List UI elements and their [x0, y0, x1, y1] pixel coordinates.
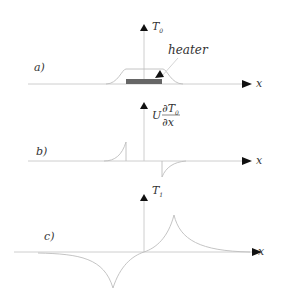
panel-a-y-arrow-icon — [140, 24, 148, 31]
panel-b: b) x U ∂T0 ∂x — [28, 102, 263, 177]
svg-text:U: U — [152, 109, 162, 122]
panel-c-y-arrow-icon — [140, 194, 148, 201]
panel-a-y-label: T0 — [152, 20, 163, 34]
heater-pointer-arrow-icon — [155, 70, 164, 78]
heater-bar — [126, 79, 162, 84]
panel-b-x-arrow-icon — [242, 157, 252, 165]
panel-a: a) x T0 heater — [28, 20, 263, 90]
heater-pointer-line — [162, 58, 178, 76]
svg-text:∂x: ∂x — [162, 116, 175, 129]
panel-a-x-arrow-icon — [242, 80, 252, 88]
panel-c-x-label: x — [258, 245, 265, 258]
panel-b-y-label: U ∂T0 ∂x — [152, 102, 180, 129]
panel-b-y-arrow-icon — [140, 102, 148, 109]
panel-b-negative-spike — [162, 161, 186, 177]
panel-c-y-label: T1 — [152, 184, 163, 198]
panel-b-x-label: x — [256, 154, 263, 167]
panel-b-label: b) — [36, 145, 47, 158]
panel-c-label: c) — [44, 230, 54, 243]
panel-a-label: a) — [34, 61, 45, 74]
heater-diagram: a) x T0 heater b) x U ∂T0 ∂x — [0, 0, 287, 304]
panel-c: c) x T1 — [14, 184, 265, 288]
svg-text:∂T0: ∂T0 — [162, 102, 179, 116]
panel-a-x-label: x — [256, 77, 263, 90]
heater-label: heater — [168, 43, 209, 57]
panel-b-positive-spike — [104, 142, 126, 161]
